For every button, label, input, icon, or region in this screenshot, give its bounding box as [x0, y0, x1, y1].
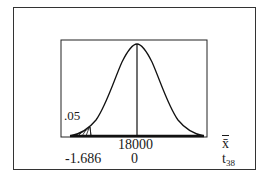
t-df-subscript: 38: [226, 158, 235, 168]
xbar-center-value: 18000: [118, 138, 153, 152]
alpha-label: .05: [64, 109, 80, 123]
xbar-axis-label: x̄: [222, 137, 229, 151]
t-center-value: 0: [131, 152, 138, 166]
t-axis-label: t38: [222, 152, 235, 170]
plot-box: [61, 40, 207, 137]
t-critical-value: -1.686: [65, 152, 101, 166]
